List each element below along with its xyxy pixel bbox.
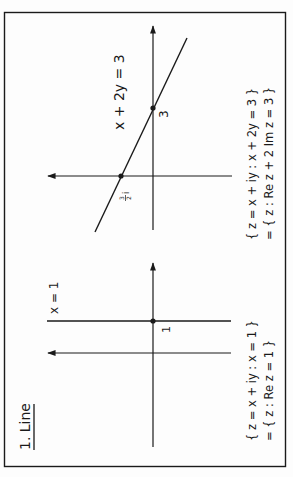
line-equation-label: x + 2y = 3 (111, 54, 127, 130)
intercept-point-imag (118, 173, 123, 178)
line-diagram: x + 2y = 3 3 3 2 i { z = x + iy : x + 2y… (0, 0, 293, 477)
line-x-plus-2y-eq-3 (95, 38, 187, 232)
point-1 (150, 318, 155, 323)
real-intercept-label: 3 (157, 110, 171, 118)
figure-frame (5, 13, 286, 467)
svg-text:2: 2 (125, 196, 132, 200)
vertical-line-graph: x = 1 1 { z = x + iy : x = 1 } = { z : R… (47, 263, 276, 447)
set-notation-line2: = { z : Re z = 1 } (262, 340, 276, 441)
figure-title: 1. Line (17, 403, 34, 450)
svg-text:i: i (122, 192, 131, 194)
point-label-1: 1 (160, 326, 173, 333)
line-equation-label: x = 1 (47, 282, 61, 314)
set-notation-line1: { z = x + iy : x = 1 } (245, 320, 259, 441)
svg-text:3: 3 (118, 196, 125, 200)
title-text: 1. Line (17, 403, 33, 450)
set-notation-line1: { z = x + iy : x + 2y = 3 } (245, 88, 259, 240)
set-notation-line2: = { z : Re z + 2 Im z = 3 } (262, 87, 276, 240)
intercept-point-real (150, 105, 155, 110)
imag-intercept-label: 3 2 i (118, 192, 132, 201)
figure-page: x + 2y = 3 3 3 2 i { z = x + iy : x + 2y… (0, 0, 293, 477)
slanted-line-graph: x + 2y = 3 3 3 2 i { z = x + iy : x + 2y… (48, 26, 276, 240)
